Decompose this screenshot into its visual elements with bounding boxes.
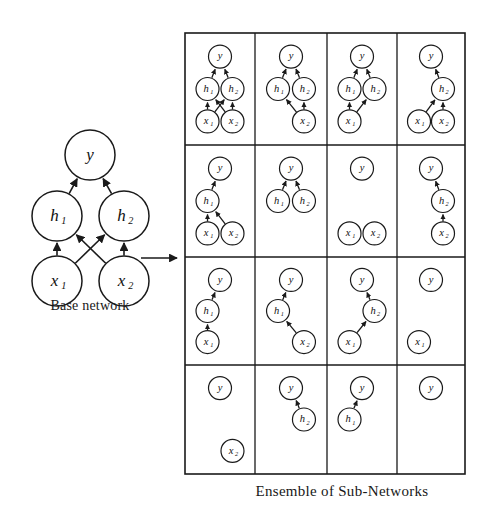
subnetwork-cell-7: yx1x2	[338, 157, 386, 245]
node-label-y-c15: y	[359, 382, 365, 393]
edge	[354, 401, 357, 409]
node-label-y-c1: y	[217, 50, 223, 61]
node-y-c3: y	[351, 45, 374, 68]
node-label-h2-c4: h	[439, 83, 444, 94]
node-y-c11: y	[351, 268, 374, 291]
node-label-y-c10: y	[288, 274, 294, 285]
subnetwork-cell-15: yh1	[338, 377, 373, 431]
network-ensemble-figure: yh1h2x1x2 yh1h2x1x2yh1h2x2yh1h2x1yh2x1x2…	[0, 0, 504, 531]
node-y-c13: y	[209, 377, 232, 400]
base-network-caption: Base network	[0, 298, 180, 314]
node-label-x1-c1: x	[203, 115, 209, 126]
node-subscript-h1-c1: 1	[210, 88, 213, 95]
subnetwork-cell-4: yh2x1x2	[408, 45, 455, 133]
node-h1-c15: h1	[338, 408, 361, 431]
node-label-h2-c14: h	[300, 413, 305, 424]
node-label-x1-c7: x	[345, 227, 351, 238]
subnetwork-cell-11: yh2x1	[338, 268, 386, 353]
edge	[296, 401, 299, 409]
node-label-y-c4: y	[428, 50, 434, 61]
node-x2-c13: x2	[221, 439, 244, 462]
node-label-y-c13: y	[217, 382, 223, 393]
node-subscript-x2: 2	[128, 280, 133, 291]
node-h2: h2	[99, 191, 149, 241]
node-label-y-c6: y	[288, 162, 294, 173]
node-label-x1-c5: x	[203, 227, 209, 238]
node-label-x2-c5: x	[228, 227, 234, 238]
node-label-x2-c8: x	[438, 227, 444, 238]
node-subscript-h2: 2	[128, 215, 133, 226]
subnetwork-cell-5: yh1x1x2	[196, 157, 244, 245]
edge	[69, 179, 77, 194]
node-x1-c7: x1	[338, 222, 361, 245]
node-h1: h1	[32, 191, 82, 241]
edge	[367, 69, 370, 78]
node-label-h2-c2: h	[300, 83, 305, 94]
node-label-x1-c4: x	[414, 115, 420, 126]
edge	[367, 292, 370, 299]
edge	[215, 100, 224, 112]
node-label-y: y	[84, 145, 94, 164]
subnetwork-cell-3: yh1h2x1	[338, 45, 386, 133]
subnetwork-cell-6: yh1h2	[267, 157, 316, 212]
node-label-h2-c3: h	[370, 83, 375, 94]
node-h1-c3: h1	[338, 78, 361, 101]
edge	[296, 69, 299, 78]
edge	[286, 100, 296, 113]
node-x1-c1: x1	[196, 110, 219, 133]
edge	[225, 69, 228, 78]
node-subscript-x1: 1	[61, 280, 66, 291]
subnetwork-cell-8: yh2x2	[420, 157, 455, 245]
edge	[212, 69, 215, 78]
edge	[283, 292, 286, 300]
node-y-c6: y	[280, 157, 303, 180]
node-subscript-h1-c5: 1	[210, 200, 213, 207]
node-label-h1-c10: h	[274, 305, 279, 316]
edge	[357, 322, 366, 333]
node-subscript-x1-c11: 1	[352, 341, 355, 348]
node-x1-c3: x1	[338, 110, 361, 133]
node-label-y-c5: y	[217, 162, 223, 173]
figure-root: yh1h2x1x2 yh1h2x1x2yh1h2x2yh1h2x1yh2x1x2…	[0, 0, 504, 531]
node-subscript-h1-c6: 1	[281, 200, 284, 207]
node-label-x2-c4: x	[438, 115, 444, 126]
edge	[436, 69, 439, 78]
node-y-c9: y	[209, 268, 232, 291]
edge	[103, 179, 111, 194]
node-y-c15: y	[351, 377, 374, 400]
node-label-h1-c3: h	[345, 83, 350, 94]
node-label-x2-c1: x	[228, 115, 234, 126]
node-label-y-c9: y	[217, 274, 223, 285]
subnetwork-cell-13: yx2	[209, 377, 244, 463]
node-label-h1-c2: h	[274, 83, 279, 94]
node-y-c2: y	[280, 45, 303, 68]
node-label-x1-c11: x	[345, 336, 351, 347]
node-label-y-c11: y	[359, 274, 365, 285]
edge	[426, 100, 435, 112]
node-label-h1: h	[50, 206, 59, 225]
node-label-x2-c7: x	[370, 227, 376, 238]
edge	[354, 69, 357, 78]
node-label-h1-c15: h	[345, 413, 350, 424]
node-subscript-h1-c3: 1	[352, 88, 355, 95]
node-y-c5: y	[209, 157, 232, 180]
node-label-x2: x	[117, 271, 126, 290]
node-h1-c1: h1	[196, 78, 219, 101]
node-y-c10: y	[280, 268, 303, 291]
edge	[357, 100, 366, 112]
node-subscript-x1-c1: 1	[210, 120, 213, 127]
node-h1-c2: h1	[267, 78, 290, 101]
node-label-h2-c6: h	[300, 195, 305, 206]
node-h2-c4: h2	[432, 78, 455, 101]
node-x2-c8: x2	[432, 222, 455, 245]
node-y-c14: y	[280, 377, 303, 400]
node-subscript-h1-c2: 1	[281, 88, 284, 95]
node-h2-c14: h2	[292, 408, 315, 431]
node-y-c8: y	[420, 157, 443, 180]
node-label-h2-c1: h	[228, 83, 233, 94]
node-label-x1-c3: x	[345, 115, 351, 126]
node-label-x1-c12: x	[414, 336, 420, 347]
subnetwork-cell-1: yh1h2x1x2	[196, 45, 244, 133]
subnetwork-cell-9: yh1x1	[196, 268, 231, 353]
node-y-c4: y	[420, 45, 443, 68]
